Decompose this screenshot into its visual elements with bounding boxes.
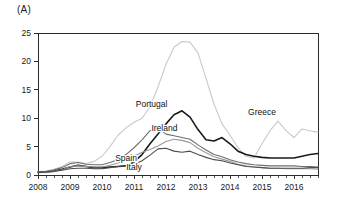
x-tick-label: 2008 xyxy=(29,182,48,192)
x-tick-label: 2012 xyxy=(157,182,176,192)
line-chart: 0510152025 20082009201020112012201320142… xyxy=(0,0,348,224)
series-label-portugal: Portugal xyxy=(136,99,168,109)
y-axis-ticks: 0510152025 xyxy=(22,28,38,180)
y-tick-label: 15 xyxy=(22,85,32,95)
x-tick-label: 2016 xyxy=(285,182,304,192)
x-tick-label: 2010 xyxy=(93,182,112,192)
series-label-greece: Greece xyxy=(248,107,276,117)
x-tick-label: 2015 xyxy=(253,182,272,192)
y-tick-label: 10 xyxy=(22,113,32,123)
y-tick-label: 0 xyxy=(26,170,31,180)
x-tick-label: 2013 xyxy=(189,182,208,192)
series-label-italy: Italy xyxy=(126,162,142,172)
plot-frame xyxy=(38,33,318,175)
y-tick-label: 5 xyxy=(26,142,31,152)
y-tick-label: 20 xyxy=(22,56,32,66)
y-tick-label: 25 xyxy=(22,28,32,38)
x-tick-label: 2011 xyxy=(125,182,144,192)
series-label-ireland: Ireland xyxy=(151,123,177,133)
x-axis-ticks: 200820092010201120122013201420152016 xyxy=(29,175,318,192)
x-tick-label: 2014 xyxy=(221,182,240,192)
chart-panel: (A) 0510152025 2008200920102011201220132… xyxy=(0,0,348,224)
x-tick-label: 2009 xyxy=(61,182,80,192)
